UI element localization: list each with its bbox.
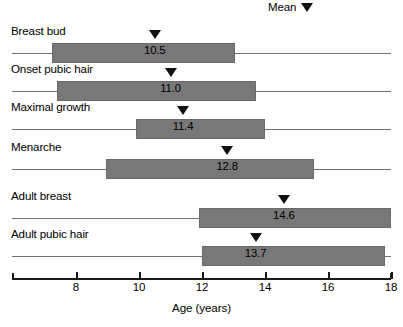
mean-value-label: 13.7 [243, 248, 269, 259]
row-label: Breast bud [11, 25, 66, 37]
chart-row: Adult breast14.6 [0, 190, 403, 228]
legend-label-mean: Mean [268, 2, 296, 14]
row-label: Adult pubic hair [11, 228, 89, 240]
mean-value-label: 14.6 [271, 210, 297, 221]
axis-endcap-left [12, 273, 14, 279]
chart-row: Breast bud10.5 [0, 25, 403, 63]
axis-tick-label: 8 [73, 282, 79, 294]
mean-marker-down-triangle-icon [165, 68, 177, 77]
chart-row: Maximal growth11.4 [0, 101, 403, 139]
chart-row: Onset pubic hair11.0 [0, 63, 403, 101]
down-triangle-icon [301, 3, 313, 12]
row-label: Onset pubic hair [11, 63, 93, 75]
chart-row: Menarche12.8 [0, 141, 403, 179]
axis-tick [391, 272, 393, 279]
range-bar [202, 246, 385, 266]
range-bar [136, 119, 265, 139]
range-bar [57, 81, 255, 101]
chart-legend: Mean [268, 2, 313, 14]
mean-marker-down-triangle-icon [278, 195, 290, 204]
mean-value-label: 11.4 [171, 121, 196, 132]
mean-marker-down-triangle-icon [250, 233, 262, 242]
axis-tick [202, 272, 204, 279]
axis-tick [265, 272, 267, 279]
axis-tick-label: 14 [259, 282, 272, 294]
range-bar [106, 159, 314, 179]
chart-row: Adult pubic hair13.7 [0, 228, 403, 266]
mean-value-label: 12.8 [214, 161, 240, 172]
axis-tick-label: 10 [133, 282, 146, 294]
x-axis-title: Age (years) [0, 301, 403, 314]
axis-tick-label: 12 [196, 282, 209, 294]
mean-value-label: 11.0 [158, 83, 183, 94]
axis-tick [328, 272, 330, 279]
axis-tick [139, 272, 141, 279]
x-axis: 81012141618 Age (years) [0, 270, 403, 327]
axis-tick [76, 272, 78, 279]
mean-marker-down-triangle-icon [149, 30, 161, 39]
mean-marker-down-triangle-icon [221, 146, 233, 155]
mean-value-label: 10.5 [142, 45, 168, 56]
mean-marker-down-triangle-icon [177, 106, 189, 115]
row-label: Menarche [11, 141, 61, 153]
row-label: Adult breast [11, 190, 71, 202]
axis-tick-label: 18 [385, 282, 398, 294]
axis-tick-label: 16 [322, 282, 335, 294]
puberty-milestones-chart: Mean Breast bud10.5Onset pubic hair11.0M… [0, 0, 403, 327]
row-label: Maximal growth [11, 101, 90, 113]
